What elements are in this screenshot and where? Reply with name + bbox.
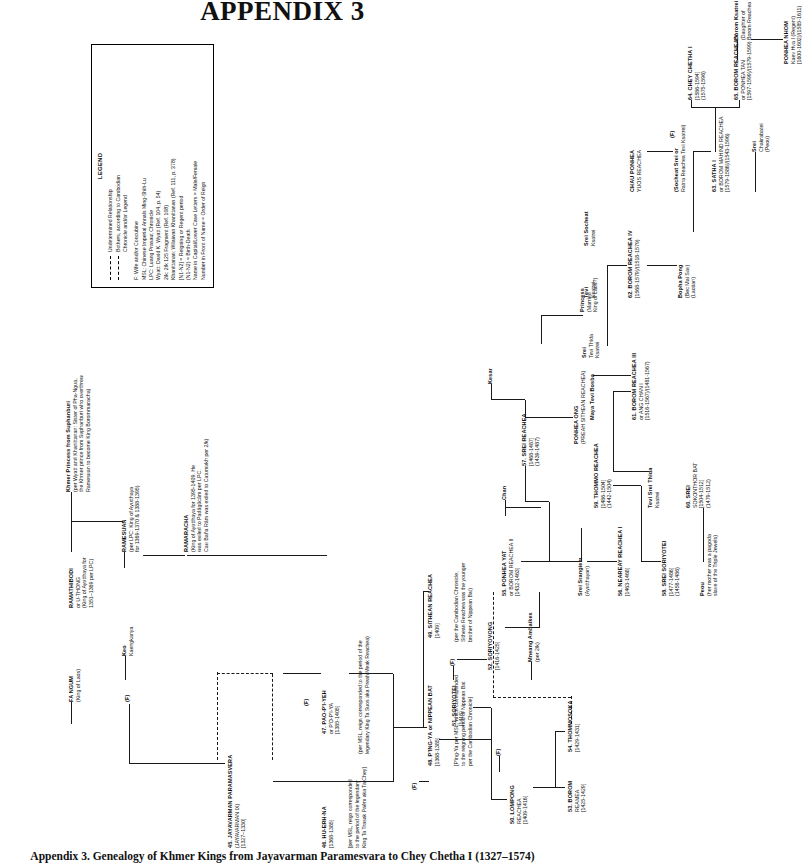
edge-bopha-v: [647, 265, 677, 266]
legend-abbr-6: [N1-N2] = Reigning or Regent period: [177, 52, 184, 280]
consort-ramathibodi: RAMATHIBODI or U-THONG (King of Ayutthay…: [68, 557, 94, 608]
edge-57-down: [525, 501, 549, 502]
edge-64-in: [691, 100, 692, 108]
node-n56: 56. NEAREAY REACHEA I [1463-1468]: [617, 526, 630, 595]
consort-srei-srangiem: Srei Srangiem (Ayutthayan): [577, 557, 590, 595]
edge-61-stem: [613, 391, 631, 392]
consort-f-48: (F): [411, 782, 418, 789]
edge-rama-down: [71, 521, 123, 522]
legend-row-undetermined: Undetermined Relationship: [107, 52, 114, 280]
edge-57-kesar: [491, 384, 492, 400]
node-n59: 59. THOMMO REACHEA [1486-1504] (1442-150…: [593, 443, 613, 508]
edge-48-stem: [393, 727, 427, 728]
edge-kesar-v: [491, 399, 525, 400]
edge-48-children: [491, 708, 492, 800]
node-n61: 61. BOROM REACHEA III or ANG CHAN I [151…: [631, 352, 651, 419]
consort-ramaracha: RAMARACHA (King of Ayutthaya for 1395-14…: [183, 438, 209, 551]
edge-51-f: [453, 666, 454, 680]
legend-title: LEGEND: [97, 52, 104, 280]
consort-tevi-ksatrei: Tevi Ksatrei: [583, 281, 596, 298]
edge-58-59: [641, 486, 642, 562]
consort-mneang: Mneang Ambaikes (per 2/k): [527, 612, 540, 662]
edge-65-borom: [737, 40, 738, 60]
edge-58-stem: [641, 561, 661, 562]
edge-50-down: [533, 787, 555, 788]
node-n48: 48. P'ING-YA or NIPPEAN BAT [1368-1385]: [427, 684, 440, 765]
note-n47: (per MSL, reign corresponded to the peri…: [357, 636, 371, 754]
edge-61-62: [607, 266, 608, 346]
edge-54-stem: [555, 731, 565, 732]
brothers-dashdot-line: [272, 674, 273, 760]
legend-abbr-9: Number in Front of Name = Order of Reign: [199, 52, 206, 280]
legend-abbr-5: Khanittanan: Wilaiwan Khanittanan (Ref. …: [170, 52, 177, 280]
edge-princess-h: [541, 316, 542, 344]
edge-47-down: [349, 673, 393, 674]
note-n46: [per MSL, reign correspondedto the perio…: [347, 767, 367, 848]
consort-bopha-pong: Bopha Pong (Bec Mai Sav) (Laotian): [677, 264, 697, 298]
edge-tevi-v: [613, 471, 649, 472]
edge-undetermined-1: [217, 672, 218, 760]
consort-f-51: (F): [449, 658, 456, 665]
legend-text-undetermined: Undetermined Relationship: [107, 189, 114, 252]
node-n54: 54. THOMMOSOKA [1429-1431]: [567, 700, 580, 752]
consort-srei-socheat: Srei Socheat Ksatrei: [583, 211, 596, 246]
legend-row-brothers: Bothers, according to CambodianChronicle…: [115, 52, 129, 280]
consort-chau-ponhea: CHAU PONHEA YUOS REACHEA: [629, 149, 642, 191]
legend-abbr-2: LPC: Luang Prasaut Chronicle: [148, 52, 155, 280]
edge-54-55-dashed-v: [493, 697, 571, 698]
edge-n47-stem: [283, 673, 321, 674]
dash-dot-line-icon: [115, 252, 119, 280]
node-n57: 57. SREI REACHEA [1468-1487] (1439-1487): [521, 413, 541, 466]
edge-nhom-v: [751, 39, 783, 40]
figure-caption: Appendix 3. Genealogy of Khmer Kings fro…: [0, 850, 565, 862]
consort-f-top: (F): [124, 694, 131, 701]
node-n60: 60. SREI SOKONTHOR BAT [1504-1512] (1479…: [685, 462, 711, 508]
consort-kesar: Kesar: [487, 368, 494, 384]
edge-56-57: [549, 502, 550, 562]
consort-f-50: (F): [495, 748, 502, 755]
legend-abbr-1: MSL: Chinese Imperial Annals Ming-Shih-L…: [140, 52, 147, 280]
consort-fa-ngum: FA NGUM (King of Laos): [68, 669, 81, 702]
node-n47: 47. PAO-P'I-YEH or P'O-P'I-YA [1385-1405…: [321, 690, 341, 734]
edge-chau-v: [647, 151, 673, 152]
edge-srei-chak: [755, 152, 756, 192]
edge-65-in: [739, 100, 740, 108]
edge-55-down: [521, 561, 581, 562]
edge-maya-v: [593, 375, 631, 376]
consort-keo: Keo Kaengkanya: [121, 626, 134, 655]
node-n58: 58. SREI SORIYOTEI [1477-1486] (1458-148…: [661, 540, 681, 595]
node-n65: 65. BOROM REACHEA V or PONHEA TAN [1597-…: [733, 33, 753, 99]
legend-abbr-7: (N1-N2) = Birth-Death: [184, 52, 191, 280]
edge-n46-stem: [273, 781, 321, 782]
legend-abbr-4: 2/k: 2/k 125 Fragment (Ref. 108): [162, 52, 169, 280]
legend-box: LEGEND Undetermined Relationship Bothers…: [91, 44, 214, 288]
edge-chan-down: [505, 507, 541, 508]
edge-n45-spouse: [129, 704, 130, 764]
edge-48-f: [419, 781, 429, 782]
edge-52-down: [505, 627, 539, 628]
node-n64: 64. CHEY CHETHA I [1586-1594] (1575-1596…: [687, 46, 707, 100]
edge-ramaracha-down: [187, 555, 327, 556]
edge-50-f: [499, 756, 500, 772]
edge-59-stem: [613, 485, 641, 486]
edge-mneang: [531, 662, 532, 680]
edge-n45-up: [129, 763, 225, 764]
edge-60-61: [613, 392, 614, 472]
edge-48-49: [423, 592, 424, 728]
node-n51: 51. SORIYOTEI [1416]: [451, 685, 464, 726]
note-n49: (per the Cambodian Chronicle,Sithean Rea…: [453, 562, 473, 641]
consort-borom-ksatrei: Borom Ksatrei (Daughter of Borom Reachea…: [733, 0, 753, 40]
edge-54-55-dashed-h: [571, 696, 572, 724]
edge-kesar-h2: [525, 400, 526, 418]
edge-srangiem: [581, 528, 582, 562]
consort-ponhea-nhom: PONHEA NHOM Kaev Hva I (Regent) [1600-16…: [783, 5, 802, 63]
edge-princess-v: [541, 315, 583, 316]
consort-f-n46: (F): [303, 698, 310, 705]
brothers-dashdot-vert: [217, 673, 273, 674]
edge-ramesuan: [124, 552, 125, 568]
node-n62: 62. BOROM REACHEA IV [1568-1579]/(1518-1…: [627, 230, 640, 298]
node-n46: 46. HU-ERH-NA [1368-1385]: [321, 806, 334, 848]
edge-50-stem: [491, 799, 507, 800]
consort-khmer-princess: Khmer Princess from Suphanburi (per Wyat…: [65, 375, 91, 492]
node-n63: 63. SATHA I or BOROM MAHIND REACHEA [157…: [711, 116, 731, 192]
